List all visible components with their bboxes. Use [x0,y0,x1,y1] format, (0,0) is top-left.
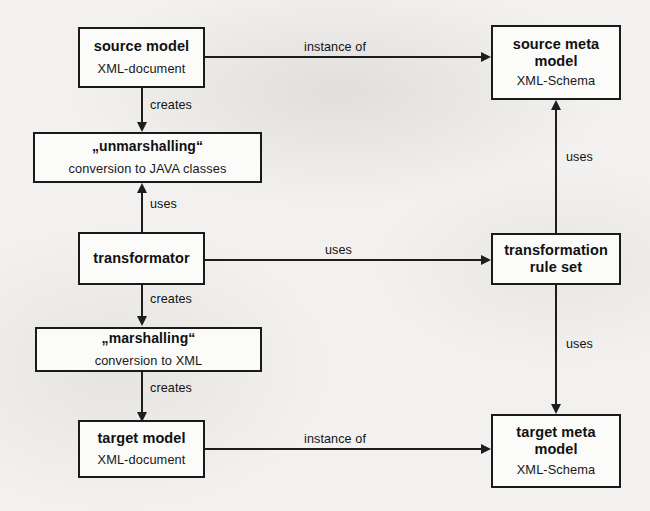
node-source-meta-model-title-line2: model [534,53,577,70]
edge-line-creates-unmarshalling [141,88,143,124]
edge-arrowhead-uses-unmarshalling [137,183,147,193]
edge-label-instance-of-source: instance of [304,40,366,54]
node-target-model[interactable]: target model XML-document [78,420,205,478]
edge-label-uses-source-meta: uses [566,150,593,164]
edge-arrowhead-uses-source-meta [551,100,561,110]
edge-line-uses-ruleset [205,259,486,261]
edge-arrowhead-uses-target-meta [551,404,561,414]
edge-line-creates-marshalling [141,285,143,318]
edge-line-uses-target-meta [555,285,557,406]
node-target-meta-model-title: target meta [516,424,595,441]
edge-label-uses-target-meta: uses [566,337,593,351]
edge-line-instance-of-source [205,56,486,58]
node-target-meta-model-title-line2: model [534,441,577,458]
edge-label-creates-marshalling: creates [150,292,192,306]
edge-arrowhead-instance-of-target [481,444,491,454]
edge-label-uses-ruleset: uses [325,243,352,257]
edge-arrowhead-creates-marshalling [137,316,147,326]
node-transformator[interactable]: transformator [78,232,205,285]
node-source-meta-model-subtitle: XML-Schema [517,74,596,89]
edge-label-creates-target-model: creates [150,381,192,395]
node-source-model[interactable]: source model XML-document [78,27,205,88]
node-transformation-rule-set-title-line2: rule set [530,259,582,276]
edge-line-uses-unmarshalling [141,192,143,232]
node-target-model-title: target model [97,430,185,447]
node-target-model-subtitle: XML-document [98,453,186,468]
edge-line-creates-target-model [141,372,143,414]
edge-arrowhead-instance-of-source [481,52,491,62]
node-marshalling[interactable]: „marshalling“ conversion to XML [35,327,262,372]
edge-line-uses-source-meta [555,109,557,233]
diagram-canvas: instance of creates uses uses uses uses … [0,0,650,511]
edge-label-instance-of-target: instance of [304,432,366,446]
node-target-meta-model-subtitle: XML-Schema [517,463,596,478]
node-transformation-rule-set[interactable]: transformation rule set [491,233,621,285]
node-transformation-rule-set-title: transformation [504,242,608,259]
edge-line-instance-of-target [205,448,486,450]
edge-arrowhead-creates-unmarshalling [137,122,147,132]
node-source-model-subtitle: XML-document [98,62,186,77]
edge-label-uses-unmarshalling: uses [150,197,177,211]
edge-label-creates-unmarshalling: creates [150,98,192,112]
node-unmarshalling-subtitle: conversion to JAVA classes [69,162,227,177]
node-unmarshalling-title: „unmarshalling“ [92,138,203,154]
node-source-meta-model-title: source meta [513,36,600,53]
node-marshalling-subtitle: conversion to XML [95,354,203,369]
node-transformator-title: transformator [93,250,189,267]
node-source-meta-model[interactable]: source meta model XML-Schema [491,25,621,100]
node-marshalling-title: „marshalling“ [102,330,196,346]
node-target-meta-model[interactable]: target meta model XML-Schema [491,414,621,488]
node-unmarshalling[interactable]: „unmarshalling“ conversion to JAVA class… [33,132,262,183]
node-source-model-title: source model [94,38,189,55]
edge-arrowhead-uses-ruleset [481,255,491,265]
